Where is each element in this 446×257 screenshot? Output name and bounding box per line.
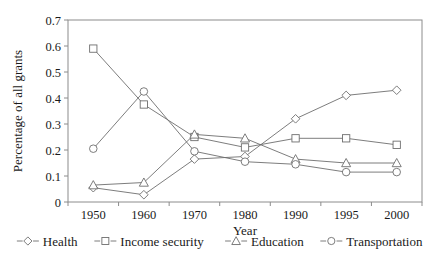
legend-item-health[interactable]: Health (17, 234, 78, 249)
y-axis-title: Percentage of all grants (10, 50, 25, 172)
diamond-marker (140, 190, 149, 199)
square-marker (90, 45, 97, 52)
x-tick-label: 1960 (131, 208, 156, 222)
y-tick-label: 0.1 (45, 170, 61, 184)
legend-label: Transportation (346, 234, 423, 249)
square-marker (241, 144, 248, 151)
legend-label: Education (251, 234, 304, 249)
y-tick-label: 0 (55, 196, 61, 210)
square-marker (342, 135, 349, 142)
legend-label: Health (43, 234, 78, 249)
y-tick-label: 0.7 (45, 14, 61, 28)
circle-marker (191, 148, 199, 156)
x-tick-label: 1980 (233, 208, 258, 222)
y-axis: 00.10.20.30.40.50.60.7 (45, 14, 68, 210)
series-layer (89, 45, 401, 199)
x-tick-label: 1995 (334, 208, 359, 222)
y-tick-label: 0.2 (45, 144, 61, 158)
circle-marker (241, 158, 249, 166)
circle-marker (342, 168, 350, 176)
circle-marker (140, 88, 148, 96)
y-tick-label: 0.3 (45, 118, 61, 132)
line-chart: 00.10.20.30.40.50.60.7Percentage of all … (0, 0, 446, 257)
legend-item-income-security[interactable]: Income security (94, 234, 204, 249)
circle-marker (393, 168, 401, 176)
square-marker (292, 135, 299, 142)
diamond-marker (342, 91, 351, 100)
square-marker (102, 238, 109, 245)
circle-marker (90, 145, 98, 153)
circle-marker (328, 237, 335, 244)
svg-text:Percentage of all grants: Percentage of all grants (10, 50, 25, 172)
legend-item-transportation[interactable]: Transportation (320, 234, 423, 249)
x-tick-label: 2000 (384, 208, 409, 222)
x-tick-label: 1970 (182, 208, 207, 222)
y-tick-label: 0.6 (45, 40, 61, 54)
x-axis: 1950196019701980199019952000 (68, 202, 422, 222)
square-marker (393, 141, 400, 148)
diamond-marker (392, 86, 401, 95)
legend-label: Income security (120, 234, 204, 249)
series-health (89, 86, 401, 199)
x-tick-label: 1950 (81, 208, 106, 222)
y-tick-label: 0.4 (45, 92, 61, 106)
legend: HealthIncome securityEducationTransporta… (17, 234, 423, 249)
circle-marker (292, 161, 300, 169)
square-marker (140, 101, 147, 108)
diamond-marker (291, 115, 300, 124)
diamond-marker (190, 155, 199, 164)
plot-frame (68, 20, 422, 202)
diamond-marker (24, 237, 32, 245)
chart-container: 00.10.20.30.40.50.60.7Percentage of all … (0, 0, 446, 257)
x-tick-label: 1990 (283, 208, 308, 222)
y-tick-label: 0.5 (45, 66, 61, 80)
